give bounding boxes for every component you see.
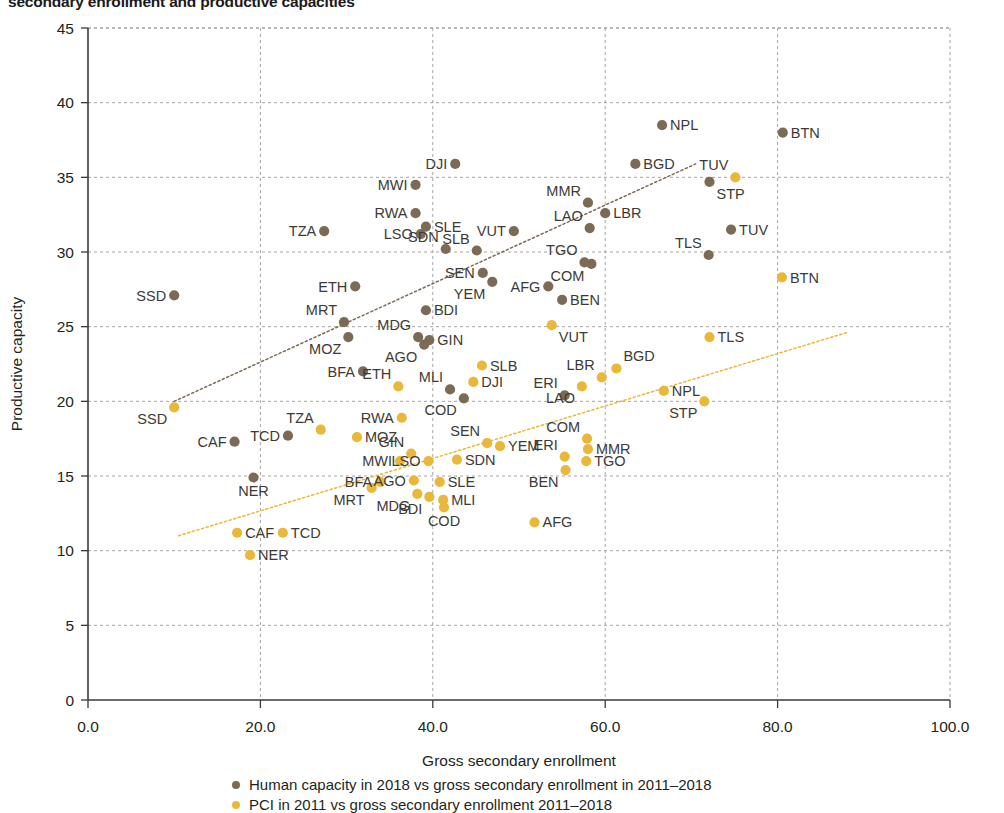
data-point[interactable]: [343, 332, 353, 342]
data-point[interactable]: [424, 335, 434, 345]
gridlines: [88, 28, 950, 700]
data-point[interactable]: [495, 441, 505, 451]
data-point[interactable]: [423, 456, 433, 466]
data-point[interactable]: [350, 281, 360, 291]
data-point-label: MLI: [419, 369, 443, 385]
data-point[interactable]: [459, 393, 469, 403]
data-point[interactable]: [600, 208, 610, 218]
data-point-label: AFG: [510, 279, 540, 295]
data-point[interactable]: [278, 528, 288, 538]
data-point-label: COD: [425, 402, 457, 418]
data-point[interactable]: [316, 425, 326, 435]
data-point[interactable]: [478, 268, 488, 278]
x-tick-label: 0.0: [77, 718, 99, 735]
data-point-label: AFG: [543, 514, 573, 530]
data-point[interactable]: [410, 208, 420, 218]
data-point-label: AGO: [374, 473, 406, 489]
data-point[interactable]: [397, 413, 407, 423]
data-point-label: TZA: [286, 410, 314, 426]
data-point-label: TZA: [289, 223, 317, 239]
data-point[interactable]: [229, 437, 239, 447]
data-point-label: DJI: [425, 156, 447, 172]
data-point[interactable]: [659, 386, 669, 396]
data-point[interactable]: [583, 198, 593, 208]
data-point-label: TUV: [739, 222, 768, 238]
data-point[interactable]: [597, 372, 607, 382]
data-point[interactable]: [319, 226, 329, 236]
data-point[interactable]: [421, 305, 431, 315]
data-point-label: BTN: [790, 270, 819, 286]
data-point-label: COM: [546, 419, 580, 435]
data-point[interactable]: [657, 120, 667, 130]
data-point[interactable]: [452, 454, 462, 464]
data-point-label: BEN: [529, 474, 559, 490]
data-point-label: ETH: [362, 366, 391, 382]
data-point[interactable]: [583, 444, 593, 454]
data-point-label: NER: [238, 483, 269, 499]
data-point[interactable]: [245, 550, 255, 560]
data-point[interactable]: [585, 223, 595, 233]
data-point[interactable]: [339, 317, 349, 327]
data-point-label: SLB: [442, 231, 469, 247]
data-point-label: MRT: [306, 302, 337, 318]
data-point[interactable]: [393, 381, 403, 391]
data-point[interactable]: [579, 257, 589, 267]
legend-label-pci: PCI in 2011 vs gross secondary enrollmen…: [249, 796, 612, 813]
data-point[interactable]: [560, 451, 570, 461]
data-point-label: TLS: [675, 235, 702, 251]
data-point-label: RWA: [375, 205, 408, 221]
data-point[interactable]: [577, 381, 587, 391]
data-point[interactable]: [409, 475, 419, 485]
legend-item-human-capacity: Human capacity in 2018 vs gross secondar…: [232, 776, 712, 793]
data-point[interactable]: [630, 159, 640, 169]
data-point-label: GIN: [437, 332, 463, 348]
data-point-label: MOZ: [309, 341, 341, 357]
data-point[interactable]: [468, 377, 478, 387]
data-point[interactable]: [450, 159, 460, 169]
data-point[interactable]: [730, 172, 740, 182]
data-point[interactable]: [778, 127, 788, 137]
data-point[interactable]: [582, 434, 592, 444]
data-point[interactable]: [557, 295, 567, 305]
data-point-label: SEN: [450, 423, 480, 439]
data-point[interactable]: [232, 528, 242, 538]
data-point[interactable]: [169, 402, 179, 412]
data-point[interactable]: [424, 492, 434, 502]
data-point[interactable]: [445, 384, 455, 394]
data-point[interactable]: [482, 438, 492, 448]
data-point[interactable]: [611, 363, 621, 373]
data-point-label: LBR: [613, 205, 641, 221]
legend-marker-brown: [232, 781, 240, 789]
data-point-label: SLB: [490, 358, 517, 374]
data-point[interactable]: [581, 456, 591, 466]
data-point[interactable]: [509, 226, 519, 236]
data-point[interactable]: [704, 250, 714, 260]
data-point[interactable]: [439, 502, 449, 512]
data-point[interactable]: [352, 432, 362, 442]
data-point[interactable]: [410, 180, 420, 190]
data-point[interactable]: [169, 290, 179, 300]
data-point[interactable]: [547, 320, 557, 330]
data-point[interactable]: [704, 332, 714, 342]
data-point[interactable]: [777, 272, 787, 282]
data-point[interactable]: [435, 477, 445, 487]
x-tick-label: 60.0: [590, 718, 621, 735]
data-point[interactable]: [248, 472, 258, 482]
data-point[interactable]: [704, 177, 714, 187]
y-tick-label: 15: [57, 468, 74, 485]
data-point[interactable]: [560, 465, 570, 475]
data-point[interactable]: [283, 431, 293, 441]
data-point[interactable]: [477, 360, 487, 370]
y-tick-label: 0: [65, 692, 74, 709]
data-point-label: LAO: [554, 208, 583, 224]
series-group-0: SSDCAFNERTCDTZAMRTMOZETHBFAMWIRWALSOSLEM…: [136, 117, 819, 499]
data-point[interactable]: [487, 277, 497, 287]
data-point-label: MLI: [451, 492, 475, 508]
data-point[interactable]: [412, 489, 422, 499]
y-tick-label: 5: [65, 617, 74, 634]
data-point[interactable]: [529, 517, 539, 527]
data-point[interactable]: [699, 396, 709, 406]
data-point[interactable]: [726, 225, 736, 235]
data-point[interactable]: [472, 245, 482, 255]
data-point-label: COM: [551, 268, 585, 284]
